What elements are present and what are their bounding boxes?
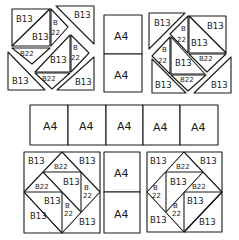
piece-label: B13 — [207, 21, 224, 31]
piece-label: B — [173, 202, 178, 210]
piece-label: B22 — [199, 55, 213, 63]
piece-label: B — [53, 19, 58, 27]
piece-label: B13 — [187, 196, 204, 206]
bottom-left-block: B13 B13 B22 B22 B13 B 22 B13 B 22 B13 B1… — [24, 152, 100, 233]
piece-label: B13 — [150, 215, 167, 225]
bottom-right-block: B13 B13 B22 B13 B22 B 22 B13 B 22 B13 B1… — [147, 152, 222, 232]
top-right-block: B13 B13 B13 B 22 B22 B13 B 22 B22 B13 B1… — [149, 13, 231, 93]
quilt-diagram: B13 B13 B 22 B22 B13 B13 B 22 B22 B13 B1… — [0, 0, 239, 240]
piece-label: B13 — [155, 80, 172, 90]
piece-label: 22 — [172, 210, 181, 218]
a4-label: A4 — [117, 120, 132, 133]
piece-label: B13 — [154, 18, 171, 28]
a4-label: A4 — [114, 30, 129, 43]
a4-label: A4 — [191, 121, 206, 134]
piece-label: B13 — [30, 211, 47, 221]
piece-label: B13 — [191, 38, 208, 48]
piece-label: B13 — [28, 156, 45, 166]
piece-label: B22 — [176, 163, 190, 171]
piece-label: B — [73, 44, 78, 52]
piece-label: B22 — [20, 50, 34, 58]
piece-label: 22 — [177, 36, 186, 44]
piece-label: B13 — [211, 80, 228, 90]
piece-label: 22 — [83, 192, 92, 200]
piece-label: B — [162, 46, 167, 54]
piece-label: B13 — [12, 76, 29, 86]
piece-label: B13 — [79, 217, 96, 227]
piece-label: B — [84, 184, 89, 192]
piece-label: B13 — [74, 10, 91, 20]
piece-label: B13 — [50, 55, 67, 65]
a4-label: A4 — [114, 167, 129, 180]
piece-label: B13 — [150, 156, 167, 166]
piece-label: B13 — [75, 77, 92, 87]
piece-label: B22 — [35, 183, 49, 191]
piece-label: B13 — [175, 58, 192, 68]
top-left-block: B13 B13 B 22 B22 B13 B13 B 22 B22 B13 B1… — [8, 6, 94, 90]
piece-label: B13 — [32, 32, 49, 42]
a4-label: A4 — [114, 69, 129, 82]
a4-label: A4 — [114, 208, 129, 221]
piece-label: B — [181, 25, 186, 33]
piece-label: B — [65, 202, 70, 210]
piece-label: B13 — [170, 177, 187, 187]
piece-label: B13 — [79, 156, 96, 166]
piece-label: 22 — [51, 29, 60, 37]
piece-label: 22 — [71, 54, 80, 62]
piece-label: B13 — [199, 217, 216, 227]
piece-label: B22 — [42, 75, 56, 83]
piece-label: 22 — [64, 210, 73, 218]
piece-label: B22 — [180, 76, 194, 84]
piece-label: B13 — [200, 156, 217, 166]
piece-label: B — [153, 184, 158, 192]
bottom-center-a4-column: A4 A4 — [104, 152, 140, 233]
a4-label: A4 — [43, 120, 58, 133]
piece-label: 22 — [152, 192, 161, 200]
middle-a4-row: A4 A4 A4 A4 A4 — [30, 105, 218, 145]
piece-label: B22 — [54, 163, 68, 171]
piece-label: B13 — [63, 177, 80, 187]
piece-label: 22 — [158, 57, 167, 65]
a4-label: A4 — [79, 120, 94, 133]
a4-label: A4 — [153, 121, 168, 134]
piece-label: B13 — [16, 14, 33, 24]
top-center-a4-column: A4 A4 — [104, 15, 142, 92]
piece-label: B22 — [192, 183, 206, 191]
piece-label: B13 — [44, 196, 61, 206]
